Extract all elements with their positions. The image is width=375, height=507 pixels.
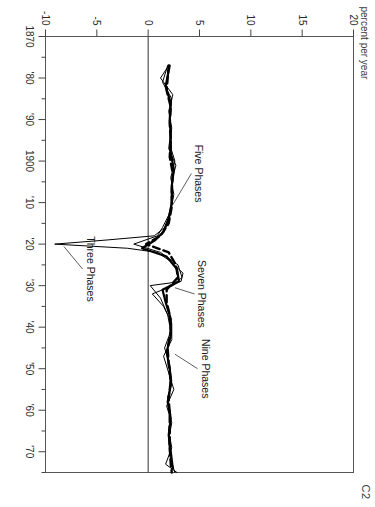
x-axis-tick-label: '10 (23, 196, 34, 209)
x-axis-tick-label: '20 (23, 237, 34, 250)
y-axis-tick-label: -5 (91, 16, 102, 25)
figure-canvas: percent per year C2 1870'80'901900'10'20… (0, 0, 375, 507)
series-annotation-label: Nine Phases (199, 338, 211, 398)
x-axis-tick-label: '70 (23, 445, 34, 458)
y-axis-tick-label: 15 (296, 14, 307, 26)
line-chart-plot: 1870'80'901900'10'20'30'40'50'60'7020151… (0, 0, 375, 507)
y-axis-tick-label: 5 (194, 19, 205, 25)
y-axis-tick-label: 0 (142, 19, 153, 25)
x-axis-tick-label: '60 (23, 403, 34, 416)
series-line (142, 65, 179, 468)
series-line (146, 65, 178, 472)
x-axis-tick-label: '80 (23, 71, 34, 84)
series-line (133, 65, 181, 472)
series-line (54, 65, 182, 472)
x-axis-tick-label: '50 (23, 362, 34, 375)
x-axis-tick-label: 1870 (23, 25, 34, 48)
x-axis-tick-label: '90 (23, 113, 34, 126)
series-annotation-label: Seven Phases (196, 260, 208, 328)
y-axis-tick-label: -10 (40, 11, 51, 26)
annotation-leader-line (174, 354, 197, 369)
rotated-figure-wrapper: percent per year C2 1870'80'901900'10'20… (0, 0, 375, 507)
x-axis-tick-label: '40 (23, 320, 34, 333)
annotation-leader-line (172, 173, 191, 204)
series-annotation-label: Three Phases (84, 236, 96, 301)
y-axis-tick-label: 10 (245, 14, 256, 26)
y-axis-tick-label: 20 (348, 14, 359, 26)
series-annotation-label: Five Phases (193, 144, 205, 202)
annotation-leader-line (174, 287, 194, 293)
x-axis-tick-label: 1900 (23, 149, 34, 172)
x-axis-tick-label: '30 (23, 279, 34, 292)
annotation-leader-line (63, 246, 82, 268)
